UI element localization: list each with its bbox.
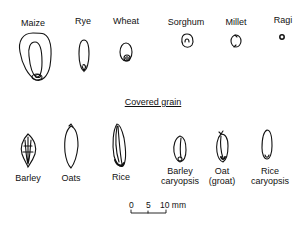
- barley-caryopsis-drawing: [174, 136, 186, 162]
- label-rice-caryopsis-line2: caryopsis: [251, 176, 289, 186]
- label-barley-caryopsis-line2: caryopsis: [161, 176, 199, 186]
- rice-covered-drawing: [113, 124, 125, 167]
- label-maize: Maize: [21, 18, 45, 28]
- sorghum-grain-drawing: [182, 34, 193, 47]
- label-rice-caryopsis: Rice caryopsis: [251, 166, 289, 186]
- label-rye: Rye: [75, 16, 91, 26]
- rice-caryopsis-drawing: [262, 130, 272, 159]
- label-oats: Oats: [61, 173, 80, 183]
- scale-tick-0: 0: [129, 200, 134, 210]
- oat-groat-drawing: [217, 131, 228, 162]
- millet-grain-drawing: [231, 35, 241, 47]
- ragi-grain-drawing: [280, 35, 284, 39]
- label-ragi: Ragi: [274, 15, 293, 25]
- rye-grain-drawing: [79, 40, 89, 71]
- label-oat-groat-line2: (groat): [209, 176, 236, 186]
- wheat-grain-drawing: [120, 43, 132, 61]
- maize-grain-drawing: [20, 33, 52, 80]
- label-barley: Barley: [15, 173, 41, 183]
- scale-tick-10mm: 10 mm: [160, 200, 186, 210]
- covered-grain-heading: Covered grain: [125, 97, 182, 107]
- grain-drawings: [0, 0, 305, 227]
- label-wheat: Wheat: [113, 16, 139, 26]
- barley-covered-drawing: [21, 134, 35, 167]
- oats-covered-drawing: [65, 124, 78, 168]
- label-millet: Millet: [225, 17, 246, 27]
- scale-bar-drawing: [131, 210, 166, 213]
- label-oat-groat-line1: Oat: [209, 166, 236, 176]
- label-sorghum: Sorghum: [168, 17, 205, 27]
- label-barley-caryopsis: Barley caryopsis: [161, 166, 199, 186]
- label-barley-caryopsis-line1: Barley: [161, 166, 199, 176]
- label-rice: Rice: [112, 172, 130, 182]
- label-rice-caryopsis-line1: Rice: [251, 166, 289, 176]
- scale-tick-5: 5: [146, 200, 151, 210]
- label-oat-groat: Oat (groat): [209, 166, 236, 186]
